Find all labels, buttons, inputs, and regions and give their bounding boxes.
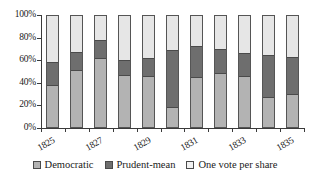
segment-democratic <box>287 94 298 127</box>
y-tick-label: 20% <box>19 101 36 111</box>
segment-democratic <box>47 85 58 127</box>
x-axis-label-1829: 1829 <box>132 136 153 153</box>
x-tick-mark <box>113 128 114 132</box>
legend-item-one-vote-per-share: One vote per share <box>186 160 277 171</box>
bar-1826 <box>70 15 83 128</box>
segment-democratic <box>239 76 250 127</box>
prudent-mean-swatch-icon <box>105 161 113 169</box>
y-tick-label: 60% <box>19 55 36 65</box>
y-tick-label: 0% <box>24 123 36 133</box>
x-axis-label-1835: 1835 <box>275 136 296 153</box>
one-vote-per-share-swatch-icon <box>186 161 194 169</box>
segment-democratic <box>71 70 82 127</box>
segment-democratic <box>119 75 130 127</box>
segment-prudent-mean <box>263 55 274 97</box>
bar-1829 <box>142 15 155 128</box>
segment-democratic <box>191 77 202 127</box>
x-tick-mark <box>65 128 66 132</box>
x-tick-mark <box>256 128 257 132</box>
bar-1830 <box>166 15 179 128</box>
x-axis-label-1825: 1825 <box>36 136 57 153</box>
legend-label-democratic: Democratic <box>45 160 94 171</box>
segment-one-vote-per-share <box>47 16 58 62</box>
bar-1825 <box>46 15 59 128</box>
segment-prudent-mean <box>71 52 82 71</box>
bar-1828 <box>118 15 131 128</box>
legend-item-democratic: Democratic <box>33 160 94 171</box>
segment-one-vote-per-share <box>167 16 178 50</box>
segment-prudent-mean <box>95 40 106 58</box>
stacked-bar-chart: 100%80%60%40%20%0% 182518271829183118331… <box>0 0 310 182</box>
x-tick-mark <box>89 128 90 132</box>
segment-one-vote-per-share <box>215 16 226 49</box>
y-tick-label: 40% <box>19 78 36 88</box>
segment-one-vote-per-share <box>191 16 202 46</box>
segment-prudent-mean <box>119 60 130 74</box>
bar-1833 <box>238 15 251 128</box>
legend-label-one-vote-per-share: One vote per share <box>198 160 277 171</box>
segment-prudent-mean <box>239 53 250 76</box>
segment-prudent-mean <box>47 62 58 85</box>
segment-prudent-mean <box>167 50 178 107</box>
bar-1832 <box>214 15 227 128</box>
x-tick-mark <box>304 128 305 132</box>
x-axis-line <box>41 128 304 129</box>
legend-item-prudent-mean: Prudent-mean <box>105 160 176 171</box>
chart-legend: Democratic Prudent-mean One vote per sha… <box>0 160 310 171</box>
y-tick-label: 80% <box>19 33 36 43</box>
segment-one-vote-per-share <box>71 16 82 52</box>
x-tick-mark <box>161 128 162 132</box>
x-tick-mark <box>184 128 185 132</box>
x-axis-label-1827: 1827 <box>84 136 105 153</box>
bar-1834 <box>262 15 275 128</box>
segment-prudent-mean <box>215 49 226 72</box>
x-axis-label-1833: 1833 <box>227 136 248 153</box>
segment-democratic <box>95 58 106 127</box>
segment-prudent-mean <box>191 46 202 77</box>
segment-prudent-mean <box>287 57 298 94</box>
legend-label-prudent-mean: Prudent-mean <box>117 160 176 171</box>
x-tick-mark <box>208 128 209 132</box>
x-tick-mark <box>41 128 42 132</box>
segment-one-vote-per-share <box>95 16 106 40</box>
x-axis-label-1831: 1831 <box>180 136 201 153</box>
segment-prudent-mean <box>143 58 154 76</box>
segment-one-vote-per-share <box>287 16 298 57</box>
segment-one-vote-per-share <box>263 16 274 55</box>
x-tick-mark <box>137 128 138 132</box>
bars-layer <box>41 15 304 128</box>
bar-1831 <box>190 15 203 128</box>
bar-1835 <box>286 15 299 128</box>
x-tick-mark <box>232 128 233 132</box>
segment-one-vote-per-share <box>119 16 130 60</box>
segment-democratic <box>263 97 274 127</box>
y-tick-label: 100% <box>15 10 36 20</box>
segment-democratic <box>143 76 154 127</box>
democratic-swatch-icon <box>33 161 41 169</box>
segment-democratic <box>215 73 226 127</box>
bar-1827 <box>94 15 107 128</box>
x-tick-mark <box>280 128 281 132</box>
segment-democratic <box>167 107 178 127</box>
segment-one-vote-per-share <box>143 16 154 58</box>
segment-one-vote-per-share <box>239 16 250 53</box>
